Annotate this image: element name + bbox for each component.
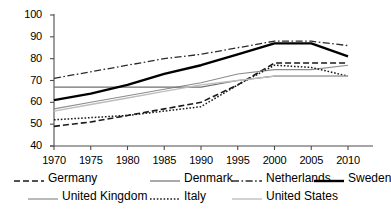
x-tick-1990: 1990 [181,155,221,166]
y-tick-70: 70 [12,75,42,86]
legend-label: United Kingdom [62,190,147,203]
legend-item-italy: Italy [150,188,206,205]
legend-item-sweden: Sweden [314,170,391,187]
x-tick-1970: 1970 [34,155,74,166]
legend-item-denmark: Denmark [150,170,233,187]
legend-label: Germany [48,172,97,185]
series-line-netherlands [54,41,348,78]
y-tick-90: 90 [12,31,42,42]
legend-item-germany: Germany [14,170,97,187]
legend-row-2: United KingdomItalyUnited States [14,188,374,205]
x-tick-1995: 1995 [218,155,258,166]
legend-item-united-states: United States [232,188,338,205]
legend-swatch-denmark-icon [150,173,180,185]
series-line-united-states [54,76,348,111]
legend-label: United States [266,190,338,203]
y-tick-80: 80 [12,53,42,64]
legend-swatch-united-states-icon [232,191,262,203]
y-tick-50: 50 [12,118,42,129]
x-tick-1975: 1975 [71,155,111,166]
x-tick-2005: 2005 [291,155,331,166]
series-lines [54,41,348,126]
legend-row-1: GermanyDenmarkNetherlandsSweden [14,170,374,187]
y-tick-40: 40 [12,140,42,151]
legend-label: Denmark [184,172,233,185]
legend-swatch-united-kingdom-icon [28,191,58,203]
x-tick-2000: 2000 [255,155,295,166]
y-tick-60: 60 [12,96,42,107]
y-tick-100: 100 [12,9,42,20]
legend-swatch-italy-icon [150,191,180,203]
chart-legend: GermanyDenmarkNetherlandsSweden United K… [14,170,374,208]
legend-label: Sweden [348,172,391,185]
x-tick-1985: 1985 [144,155,184,166]
legend-item-united-kingdom: United Kingdom [28,188,147,205]
legend-swatch-germany-icon [14,173,44,185]
x-tick-2010: 2010 [328,155,368,166]
legend-label: Italy [184,190,206,203]
x-tick-1980: 1980 [108,155,148,166]
axis-group [50,14,373,150]
series-line-sweden [54,43,348,100]
legend-swatch-netherlands-icon [232,173,262,185]
series-line-germany [54,63,348,126]
legend-swatch-sweden-icon [314,173,344,185]
